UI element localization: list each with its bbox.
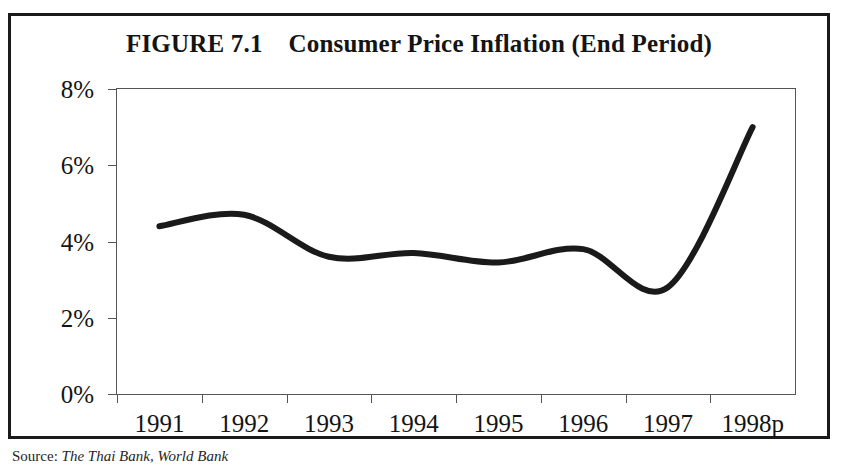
x-axis-tick-6: [626, 394, 627, 403]
figure-frame: FIGURE 7.1 Consumer Price Inflation (End…: [8, 13, 830, 439]
x-axis-tick-4: [456, 394, 457, 403]
x-axis-label-1998p: 1998p: [721, 410, 784, 438]
x-axis-tick-2: [287, 394, 288, 403]
x-axis-label-1995: 1995: [473, 410, 523, 438]
x-axis-tick-0: [117, 394, 118, 403]
y-axis-tick-6: 6%: [108, 165, 117, 166]
y-axis-label-8: 8%: [61, 76, 94, 104]
x-axis-label-1992: 1992: [219, 410, 269, 438]
x-axis-label-1993: 1993: [304, 410, 354, 438]
x-axis-label-1997: 1997: [643, 410, 693, 438]
y-axis-tick-2: 2%: [108, 318, 117, 319]
source-note-label: Source:: [12, 448, 58, 464]
inflation-line-series: [159, 127, 752, 292]
y-axis-tick-0: 0%: [108, 394, 117, 395]
y-axis-label-4: 4%: [61, 229, 94, 257]
y-axis-tick-4: 4%: [108, 242, 117, 243]
x-axis-tick-7: [710, 394, 711, 403]
y-axis-label-0: 0%: [61, 381, 94, 409]
source-note-body: The Thai Bank, World Bank: [62, 448, 229, 464]
y-axis-label-2: 2%: [61, 305, 94, 333]
inflation-line-chart: [117, 89, 795, 394]
x-axis-tick-1: [202, 394, 203, 403]
source-note: Source: The Thai Bank, World Bank: [12, 448, 228, 465]
chart-plot-area: 8% 6% 4% 2% 0% 1991 1992 1993 1994 1995 …: [116, 88, 796, 395]
x-axis-tick-3: [371, 394, 372, 403]
y-axis-label-6: 6%: [61, 152, 94, 180]
x-axis-label-1996: 1996: [558, 410, 608, 438]
x-axis-label-1994: 1994: [389, 410, 439, 438]
y-axis-tick-8: 8%: [108, 89, 117, 90]
x-axis-tick-5: [541, 394, 542, 403]
x-axis-label-1991: 1991: [134, 410, 184, 438]
figure-title: FIGURE 7.1 Consumer Price Inflation (End…: [11, 30, 827, 58]
